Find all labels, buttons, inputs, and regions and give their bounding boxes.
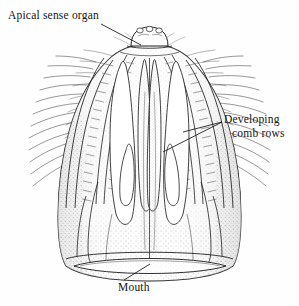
figure-container: Apical sense organ Developingcomb rows M… — [0, 0, 299, 306]
pharynx — [141, 58, 158, 258]
label-mouth: Mouth — [118, 281, 150, 293]
label-developing-line2: comb rows — [224, 126, 285, 140]
ctenophore-larva-illustration — [0, 0, 299, 306]
label-developing-comb-rows: Developingcomb rows — [224, 112, 285, 140]
clipped-figure-caption — [6, 300, 286, 306]
label-developing-line1: Developing — [224, 113, 280, 125]
label-apical-sense-organ: Apical sense organ — [8, 9, 99, 21]
